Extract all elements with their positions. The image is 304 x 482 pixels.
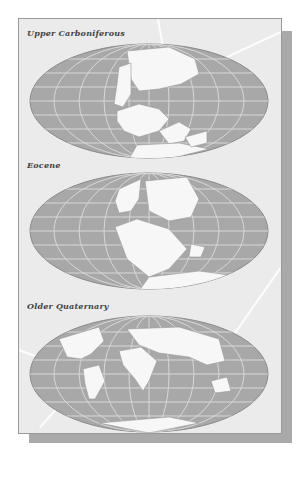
map-panel-upper-carboniferous: Upper Carboniferous bbox=[19, 19, 281, 159]
figure-card: Upper Carboniferous bbox=[18, 18, 282, 434]
world-map-pangaea-icon bbox=[19, 19, 281, 159]
map-panel-eocene: Eocene bbox=[19, 159, 281, 299]
world-map-eocene-icon bbox=[19, 159, 281, 299]
map-panel-older-quaternary: Older Quaternary bbox=[19, 299, 281, 433]
world-map-modern-icon bbox=[19, 299, 281, 433]
